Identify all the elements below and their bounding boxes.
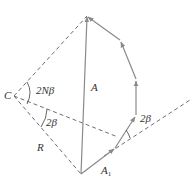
label-angle-2beta-right: 2β (140, 113, 151, 124)
angle-arc-2beta-right (126, 130, 130, 138)
label-A: A (91, 82, 98, 93)
phasor-2 (115, 117, 135, 148)
diagram-lines (0, 0, 192, 190)
label-A1: A1 (101, 165, 111, 178)
label-A1-main: A (101, 164, 108, 176)
phasor-5 (88, 17, 120, 40)
phasor-diagram: C 2Nβ A 2β R A1 2β (0, 0, 192, 190)
label-angle-2Nbeta: 2Nβ (36, 85, 54, 96)
label-angle-2beta-left: 2β (46, 117, 57, 128)
dashed-radius-middle (14, 96, 118, 137)
label-C: C (4, 90, 11, 101)
angle-arc-2Nbeta (27, 82, 30, 104)
dashed-extension-ray (104, 100, 190, 156)
label-A1-subscript: 1 (108, 170, 112, 178)
resultant-vector-A (81, 17, 87, 174)
dashed-radius-R (14, 96, 81, 174)
phasor-4 (121, 42, 136, 79)
label-R: R (37, 142, 44, 153)
